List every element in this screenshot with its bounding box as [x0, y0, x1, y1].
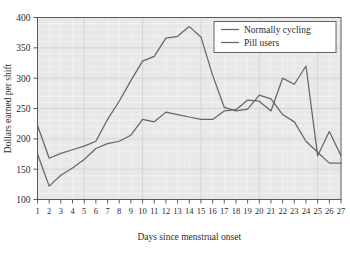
x-tick-label: 1 — [35, 206, 39, 216]
x-tick-label: 17 — [220, 206, 229, 216]
x-tick-label: 13 — [173, 206, 182, 216]
x-tick-label: 8 — [117, 206, 121, 216]
y-tick-label: 300 — [16, 74, 31, 84]
x-tick-label: 5 — [82, 206, 86, 216]
x-tick-label: 4 — [70, 206, 75, 216]
x-tick-label: 16 — [208, 206, 217, 216]
x-tick-label: 15 — [197, 206, 206, 216]
y-axis-ticks: 100150200250300350400 — [16, 13, 37, 205]
y-tick-label: 400 — [16, 13, 31, 23]
x-tick-label: 22 — [278, 206, 287, 216]
x-tick-label: 6 — [94, 206, 98, 216]
x-tick-label: 14 — [185, 206, 194, 216]
x-tick-label: 27 — [337, 206, 346, 216]
legend-label-normally-cycling: Normally cycling — [244, 25, 311, 35]
x-tick-label: 2 — [47, 206, 51, 216]
x-tick-label: 9 — [129, 206, 133, 216]
x-tick-label: 10 — [138, 206, 147, 216]
x-tick-label: 21 — [267, 206, 276, 216]
y-tick-label: 100 — [16, 195, 31, 205]
x-tick-label: 12 — [162, 206, 171, 216]
line-chart: 100150200250300350400 123456789101112131… — [0, 0, 350, 256]
y-tick-label: 250 — [16, 104, 31, 114]
x-tick-label: 18 — [232, 206, 241, 216]
chart-legend: Normally cyclingPill users — [214, 22, 336, 53]
x-tick-label: 20 — [255, 206, 264, 216]
y-tick-label: 150 — [16, 165, 31, 175]
x-tick-label: 24 — [302, 206, 311, 216]
y-tick-label: 350 — [16, 43, 31, 53]
x-axis-ticks: 1234567891011121314151617181920212223242… — [35, 200, 345, 216]
y-axis-label: Dollars earned per shift — [3, 63, 13, 153]
x-tick-label: 11 — [150, 206, 158, 216]
x-tick-label: 25 — [313, 206, 322, 216]
x-tick-label: 3 — [59, 206, 63, 216]
legend-label-pill-users: Pill users — [244, 38, 279, 48]
y-tick-label: 200 — [16, 134, 31, 144]
x-tick-label: 7 — [105, 206, 109, 216]
x-tick-label: 26 — [325, 206, 334, 216]
x-tick-label: 23 — [290, 206, 299, 216]
chart-figure: 100150200250300350400 123456789101112131… — [0, 0, 350, 256]
x-tick-label: 19 — [243, 206, 252, 216]
x-axis-label: Days since menstrual onset — [137, 232, 241, 242]
